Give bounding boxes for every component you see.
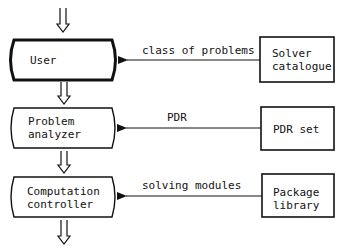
pdr-set-label: PDR set	[273, 123, 319, 136]
connector-label-solving-modules: solving modules	[142, 180, 241, 192]
problem-analyzer-label-line-1: Problem	[28, 115, 81, 128]
flow-arrow-analyzer-to-controller	[58, 151, 70, 173]
flow-arrow-user-to-analyzer	[58, 82, 70, 104]
computation-controller-label-line-2: controller	[27, 198, 100, 211]
user-label-line-1: User	[30, 54, 57, 67]
computation-controller-label-line-1: Computation	[27, 185, 100, 198]
flow-arrow-input	[57, 8, 69, 32]
package-library-label-line-1: Package	[273, 186, 319, 199]
solver-catalogue-label: Solver catalogue	[272, 47, 332, 73]
connector-label-class-of-problems: class of problems	[142, 45, 255, 57]
solver-catalogue-label-line-1: Solver	[272, 47, 332, 60]
pdr-set-label-line-1: PDR set	[273, 123, 319, 136]
problem-analyzer-label: Problem analyzer	[28, 115, 81, 141]
computation-controller-label: Computation controller	[27, 185, 100, 211]
problem-analyzer-label-line-2: analyzer	[28, 128, 81, 141]
solver-catalogue-label-line-2: catalogue	[272, 60, 332, 73]
package-library-label: Package library	[273, 186, 319, 212]
user-label: User	[30, 54, 57, 67]
user-box	[11, 40, 116, 80]
flow-arrow-output	[58, 220, 70, 244]
connector-label-pdr: PDR	[167, 112, 187, 124]
package-library-label-line-2: library	[273, 199, 319, 212]
